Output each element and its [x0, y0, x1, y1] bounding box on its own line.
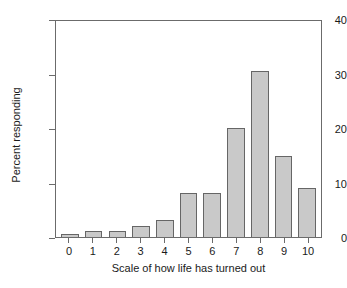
bar-slot [129, 21, 153, 237]
x-axis-title: Scale of how life has turned out [55, 262, 322, 274]
plot-area [55, 20, 322, 238]
x-tick-slot [81, 238, 105, 243]
x-tick-slot [248, 238, 272, 243]
x-axis-tick-mark [92, 238, 93, 243]
bar-series [56, 21, 321, 237]
x-axis-ticks [55, 238, 322, 243]
x-tick-slot [105, 238, 129, 243]
bar [109, 231, 127, 237]
x-axis-tick-labels: 012345678910 [55, 244, 322, 258]
bar [132, 226, 150, 237]
x-axis-tick-label: 2 [105, 244, 129, 258]
x-tick-slot [272, 238, 296, 243]
bar [180, 193, 198, 237]
x-tick-slot [57, 238, 81, 243]
bar [203, 193, 221, 237]
x-axis-tick-label: 5 [177, 244, 201, 258]
x-tick-slot [224, 238, 248, 243]
x-axis-tick-mark [140, 238, 141, 243]
bar [275, 156, 293, 237]
bar-slot [105, 21, 129, 237]
x-axis-tick-mark [260, 238, 261, 243]
bar [298, 188, 316, 237]
bar-slot [177, 21, 201, 237]
x-axis-tick-mark [284, 238, 285, 243]
y-axis-title: Percent responding [10, 75, 22, 195]
bar-slot [153, 21, 177, 237]
bar-slot [224, 21, 248, 237]
x-tick-slot [200, 238, 224, 243]
x-axis-tick-label: 1 [81, 244, 105, 258]
bar-slot [272, 21, 296, 237]
bar [156, 220, 174, 237]
bar [85, 231, 103, 237]
x-tick-slot [177, 238, 201, 243]
x-axis-tick-label: 8 [248, 244, 272, 258]
x-axis-tick-label: 9 [272, 244, 296, 258]
x-axis-tick-label: 10 [296, 244, 320, 258]
bar-chart-figure: Percent responding 010203040 01234567891… [0, 0, 347, 288]
x-tick-slot [296, 238, 320, 243]
bar-slot [82, 21, 106, 237]
x-axis-tick-mark [212, 238, 213, 243]
x-axis-tick-label: 4 [153, 244, 177, 258]
x-axis-tick-label: 6 [200, 244, 224, 258]
x-axis-tick-label: 0 [57, 244, 81, 258]
bar-slot [200, 21, 224, 237]
x-axis-tick-mark [164, 238, 165, 243]
bar [61, 234, 79, 237]
bar-slot [248, 21, 272, 237]
bar-slot [295, 21, 319, 237]
x-axis-tick-mark [68, 238, 69, 243]
x-axis-tick-mark [308, 238, 309, 243]
bar [227, 128, 245, 237]
x-axis-tick-label: 7 [224, 244, 248, 258]
x-axis-tick-mark [116, 238, 117, 243]
bar [251, 71, 269, 237]
x-axis-tick-mark [236, 238, 237, 243]
x-tick-slot [129, 238, 153, 243]
x-tick-slot [153, 238, 177, 243]
x-axis-tick-label: 3 [129, 244, 153, 258]
bar-slot [58, 21, 82, 237]
x-axis-tick-mark [188, 238, 189, 243]
